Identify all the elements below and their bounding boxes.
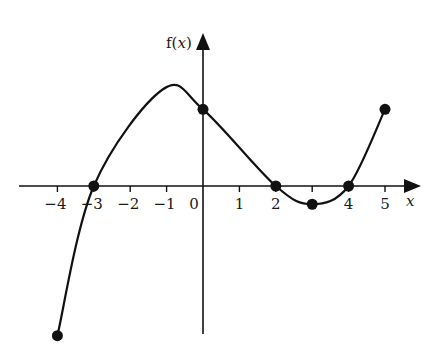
x-axis-label: x xyxy=(406,192,415,210)
data-point xyxy=(88,181,99,192)
x-axis-arrow-icon xyxy=(404,179,421,193)
function-curve xyxy=(57,85,385,336)
data-point xyxy=(380,104,391,115)
data-point xyxy=(270,181,281,192)
x-tick-label: 2 xyxy=(271,195,281,213)
x-tick-label: −1 xyxy=(154,195,176,213)
function-graph: −4−3−2−101245 f(x) x xyxy=(0,0,446,354)
x-tick-label: −2 xyxy=(117,195,139,213)
x-tick-label: −3 xyxy=(81,195,103,213)
data-point xyxy=(307,199,318,210)
x-tick-label: 5 xyxy=(380,195,390,213)
y-axis-arrow-icon xyxy=(196,33,210,50)
x-ticks xyxy=(57,186,385,192)
data-point xyxy=(198,104,209,115)
x-tick-label: −4 xyxy=(44,195,66,213)
x-tick-label: 0 xyxy=(189,195,199,213)
y-axis-label: f(x) xyxy=(166,34,192,52)
marked-points xyxy=(52,104,391,341)
data-point xyxy=(343,181,354,192)
x-tick-label: 4 xyxy=(344,195,354,213)
x-tick-label: 1 xyxy=(235,195,245,213)
axes xyxy=(19,33,421,334)
data-point xyxy=(52,330,63,341)
